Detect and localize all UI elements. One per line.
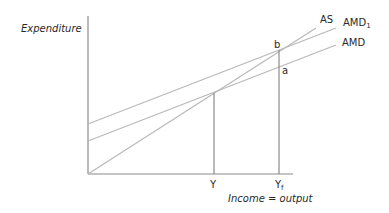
x-tick-y-label: Y — [210, 180, 216, 190]
as-curve-label: AS — [320, 15, 333, 25]
point-a-label: a — [282, 66, 288, 76]
as-curve — [88, 28, 316, 174]
amd1-label-text: AMD — [343, 17, 366, 28]
x-axis-label: Income = output — [228, 194, 313, 204]
y-axis-label: Expenditure — [21, 24, 82, 34]
amd1-curve-label: AMD1 — [343, 18, 371, 30]
x-tick-yf-label: Yf — [275, 180, 284, 192]
point-b-label: b — [274, 40, 280, 50]
yf-label-subscript: f — [281, 184, 283, 192]
amd-curve-label: AMD — [342, 38, 365, 48]
amd1-curve — [88, 28, 336, 124]
amd1-label-subscript: 1 — [366, 22, 370, 30]
amd-curve — [88, 45, 336, 141]
